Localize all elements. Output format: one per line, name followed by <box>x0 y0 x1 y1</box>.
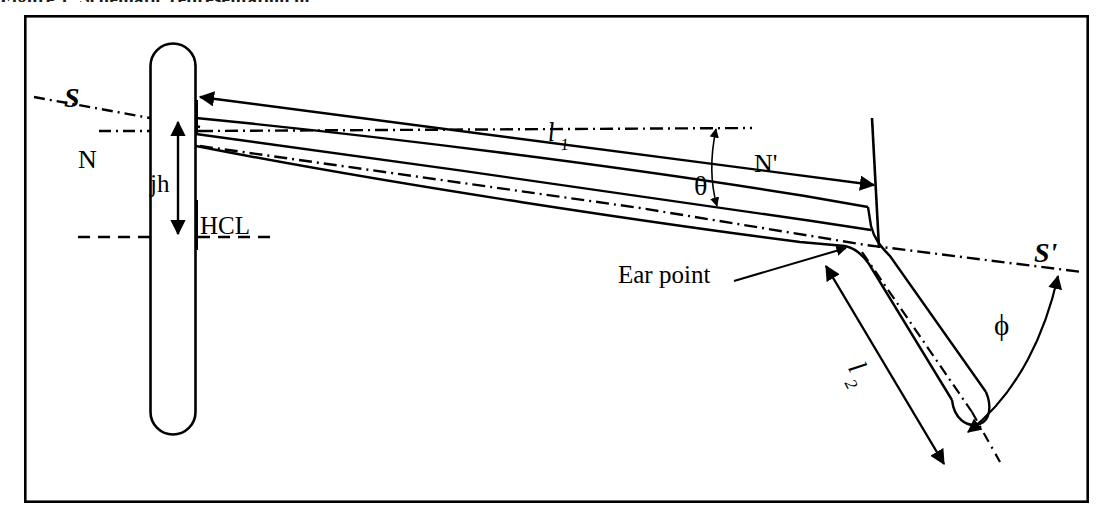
lens-rim-capsule <box>151 44 196 435</box>
label-s-prime: S' <box>1034 237 1058 268</box>
diagram-svg: S N N' S' jh HCL Ear point l 1 l 2 θ ϕ <box>0 0 1104 519</box>
label-ear-point: Ear point <box>618 261 710 288</box>
label-hcl: HCL <box>200 212 250 239</box>
label-theta: θ <box>694 170 707 201</box>
figure-canvas: Figure 1. Schematic representation of <box>0 0 1104 519</box>
label-n: N <box>78 145 97 174</box>
label-phi: ϕ <box>994 309 1009 341</box>
label-n-prime: N' <box>754 149 777 178</box>
label-s: S <box>64 82 80 113</box>
label-jh: jh <box>149 170 170 197</box>
label-l1-sub: 1 <box>560 135 570 155</box>
